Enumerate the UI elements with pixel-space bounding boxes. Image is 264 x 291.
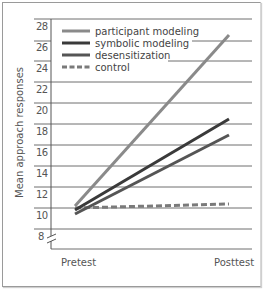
- svg-text:16: 16: [36, 147, 48, 158]
- series-desensitization: [75, 135, 229, 214]
- svg-text:28: 28: [36, 21, 48, 32]
- x-label-posttest: Posttest: [214, 257, 254, 268]
- series-symbolic-modeling: [75, 119, 229, 210]
- y-axis: [47, 19, 56, 249]
- svg-text:10: 10: [36, 210, 48, 221]
- legend: participant modeling symbolic modeling d…: [62, 26, 199, 73]
- svg-text:18: 18: [36, 126, 48, 137]
- legend-label-control: control: [95, 62, 130, 73]
- svg-text:8: 8: [38, 231, 44, 242]
- svg-text:22: 22: [36, 84, 48, 95]
- legend-label-desensitization: desensitization: [95, 50, 170, 61]
- y-axis-title: Mean approach responses: [14, 67, 25, 198]
- line-chart: 28 26 24 22 20 18 16 14 12 10 8 Mean app…: [0, 0, 264, 291]
- legend-label-participant: participant modeling: [95, 26, 199, 37]
- svg-text:12: 12: [36, 189, 48, 200]
- series-control: [75, 204, 229, 208]
- svg-text:20: 20: [36, 105, 48, 116]
- legend-label-symbolic: symbolic modeling: [95, 38, 189, 49]
- svg-text:26: 26: [36, 42, 48, 53]
- y-tick-labels: 28 26 24 22 20 18 16 14 12 10 8: [36, 21, 48, 242]
- x-label-pretest: Pretest: [61, 257, 96, 268]
- svg-text:14: 14: [36, 168, 48, 179]
- svg-text:24: 24: [36, 63, 48, 74]
